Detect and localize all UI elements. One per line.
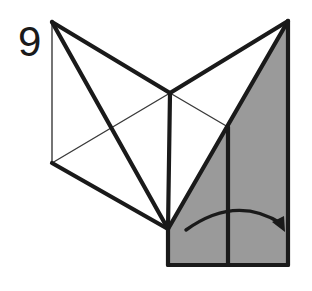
origami-figure-root: 9 [0, 0, 312, 291]
center-to-bottom-junction-line [168, 93, 170, 229]
step-number-label: 9 [18, 18, 41, 65]
origami-diagram: 9 [0, 0, 312, 291]
